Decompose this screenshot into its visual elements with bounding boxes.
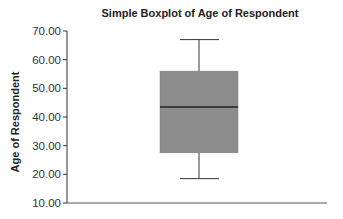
y-tick-label: 50.00 bbox=[32, 82, 61, 94]
y-tick-label: 40.00 bbox=[32, 111, 61, 123]
y-tick-label: 30.00 bbox=[32, 140, 61, 152]
y-axis: 10.0020.0030.0040.0050.0060.0070.00 bbox=[32, 25, 67, 209]
chart-title: Simple Boxplot of Age of Respondent bbox=[102, 7, 299, 19]
box-plot-age bbox=[160, 40, 238, 179]
y-tick-label: 60.00 bbox=[32, 54, 61, 66]
y-tick-label: 20.00 bbox=[32, 168, 61, 180]
y-axis-label: Age of Respondent bbox=[9, 71, 21, 172]
iqr-box bbox=[160, 71, 238, 153]
boxplot-chart: Simple Boxplot of Age of Respondent Age … bbox=[0, 0, 343, 219]
y-tick-label: 10.00 bbox=[32, 197, 61, 209]
y-tick-label: 70.00 bbox=[32, 25, 61, 37]
